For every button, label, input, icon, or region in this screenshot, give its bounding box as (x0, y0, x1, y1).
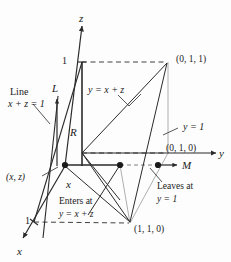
segment-M-label: M (182, 159, 191, 172)
plane-y1-label: y = 1 (183, 121, 204, 133)
point-enter-dot (117, 162, 123, 168)
plane-equation-label: y = x + z (88, 84, 124, 96)
x-axis-label: x (17, 245, 22, 258)
y-axis-label: y (219, 147, 224, 160)
vertex-label-011: (0, 1, 1) (176, 54, 206, 65)
z-axis-tick-1: 1 (62, 55, 67, 67)
figure-container: z y x 1 1 (0, 1, 1) (0, 1, 0) (1, 1, 0) … (0, 0, 231, 262)
x-marker-label: x (66, 178, 71, 191)
line-x-plus-z-equals-1 (43, 96, 58, 238)
enters-at-line2: y = x + z (59, 209, 93, 220)
vertex-label-110: (1, 1, 0) (134, 224, 164, 235)
segment-R-label: R (70, 126, 77, 139)
enters-at-line1: Enters at (59, 196, 93, 207)
vertex-label-010: (0, 1, 0) (166, 143, 196, 154)
leaves-at-line1: Leaves at (157, 181, 193, 192)
z-axis (65, 26, 82, 166)
point-xz-dot (62, 162, 68, 168)
callout-line-label: Line (10, 86, 28, 98)
z-axis-label: z (79, 12, 83, 25)
leaves-at-line2: y = 1 (157, 194, 177, 205)
callout-line-equation: x + z = 1 (8, 98, 45, 110)
segment-L-label: L (52, 82, 58, 95)
point-xz-label: (x, z) (6, 172, 25, 183)
point-leave-dot (155, 162, 161, 168)
x-axis-tick-1: 1 (25, 215, 30, 227)
